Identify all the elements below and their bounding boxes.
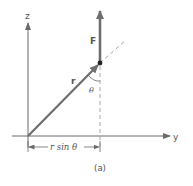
application-point [98, 61, 103, 66]
theta-arc [88, 75, 100, 81]
r-extension-dashed [100, 40, 126, 63]
r-vector-label: r [71, 76, 76, 86]
torque-diagram: z y r θ F r sin θ (a) [0, 0, 193, 186]
r-vector [28, 65, 98, 136]
dimension-label: r sin θ [50, 142, 77, 152]
y-axis-label: y [173, 132, 179, 142]
force-label: F [90, 36, 96, 46]
z-axis-label: z [25, 11, 30, 21]
figure-caption: (a) [94, 163, 106, 173]
theta-label: θ [89, 86, 94, 95]
